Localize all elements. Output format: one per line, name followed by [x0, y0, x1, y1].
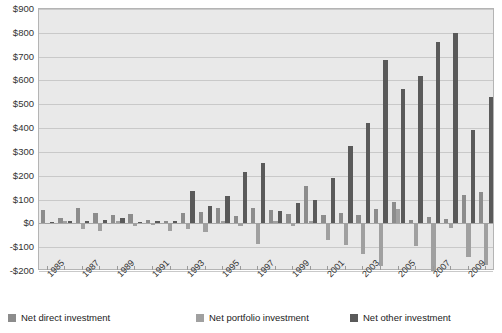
bar — [321, 215, 325, 223]
bar — [164, 221, 168, 224]
bar — [190, 191, 194, 223]
bar — [484, 223, 488, 265]
y-axis-tick-label: $400 — [0, 122, 34, 133]
bar — [181, 213, 185, 224]
bar — [331, 178, 335, 223]
bar — [309, 221, 313, 223]
bar — [374, 209, 378, 223]
y-axis-tick-label: $300 — [0, 145, 34, 156]
bar — [168, 223, 172, 230]
bar — [431, 223, 435, 271]
bar — [356, 215, 360, 223]
bar — [379, 223, 383, 266]
bar — [261, 163, 265, 224]
y-axis-tick-label: $200 — [0, 169, 34, 180]
x-axis-tick-mark — [170, 266, 171, 270]
y-axis-tick-label: $100 — [0, 193, 34, 204]
bar — [120, 218, 124, 223]
legend-item: Net direct investment — [8, 312, 110, 323]
y-axis-tick-label: -$100 — [0, 241, 34, 252]
x-axis-tick-mark — [345, 266, 346, 270]
bar — [45, 223, 49, 224]
bar — [436, 42, 440, 223]
bar — [418, 76, 422, 224]
bar — [251, 208, 255, 224]
bar — [199, 212, 203, 223]
bar — [427, 217, 431, 223]
x-axis-tick-mark — [134, 266, 135, 270]
bar — [50, 222, 54, 223]
x-axis: 1985198719891991199319951997199920012003… — [38, 270, 494, 310]
plot-area — [38, 8, 494, 270]
bar — [273, 221, 277, 223]
bar — [489, 97, 493, 223]
bar — [392, 202, 396, 223]
bar — [116, 221, 120, 224]
bar — [186, 223, 190, 228]
x-axis-tick-mark — [380, 266, 381, 270]
bar — [256, 223, 260, 243]
bar — [146, 220, 150, 224]
bar — [401, 89, 405, 224]
bar — [348, 146, 352, 223]
bar — [344, 223, 348, 244]
bar — [133, 223, 137, 225]
investment-flows-bar-chart: $900$800$700$600$500$400$300$200$100$0-$… — [0, 0, 502, 333]
bar — [68, 221, 72, 223]
legend-swatch-icon — [350, 314, 358, 322]
bar — [339, 213, 343, 224]
y-axis-tick-label: $800 — [0, 26, 34, 37]
bar — [471, 130, 475, 223]
chart-legend: Net direct investmentNet portfolio inves… — [0, 312, 502, 332]
bar — [466, 223, 470, 256]
bar — [361, 223, 365, 254]
bar — [326, 223, 330, 240]
bar — [203, 223, 207, 231]
bar — [221, 221, 225, 223]
bar — [409, 220, 413, 224]
legend-item: Net portfolio investment — [196, 312, 309, 323]
y-axis-tick-label: $0 — [0, 217, 34, 228]
bar — [155, 221, 159, 223]
legend-item: Net other investment — [350, 312, 451, 323]
legend-label: Net direct investment — [21, 312, 110, 323]
legend-label: Net portfolio investment — [209, 312, 309, 323]
bar — [238, 223, 242, 226]
y-axis-tick-label: $600 — [0, 74, 34, 85]
bar — [98, 223, 102, 231]
legend-label: Net other investment — [363, 312, 451, 323]
bar — [479, 192, 483, 223]
bar — [366, 123, 370, 223]
bar — [291, 223, 295, 225]
bar — [85, 221, 89, 223]
bar — [304, 186, 308, 223]
legend-swatch-icon — [196, 314, 204, 322]
x-axis-tick-mark — [240, 266, 241, 270]
bar — [296, 203, 300, 223]
bar — [111, 215, 115, 224]
bar — [444, 219, 448, 224]
bar — [313, 200, 317, 224]
y-axis-tick-label: $900 — [0, 3, 34, 14]
x-axis-tick-mark — [205, 266, 206, 270]
bar — [138, 222, 142, 223]
bar — [383, 60, 387, 223]
bar — [396, 209, 400, 223]
bar — [76, 208, 80, 223]
y-axis-tick-label: $500 — [0, 98, 34, 109]
bar — [449, 223, 453, 227]
y-axis: $900$800$700$600$500$400$300$200$100$0-$… — [0, 8, 34, 270]
bar — [81, 223, 85, 228]
bar — [414, 223, 418, 246]
bar — [58, 218, 62, 223]
bar — [462, 195, 466, 224]
bar — [93, 213, 97, 224]
bar — [63, 221, 67, 224]
bars-layer — [39, 9, 493, 269]
bar — [128, 214, 132, 224]
bar — [234, 216, 238, 223]
bar — [103, 220, 107, 223]
y-axis-tick-label: -$200 — [0, 265, 34, 276]
y-axis-tick-label: $700 — [0, 50, 34, 61]
bar — [41, 210, 45, 223]
